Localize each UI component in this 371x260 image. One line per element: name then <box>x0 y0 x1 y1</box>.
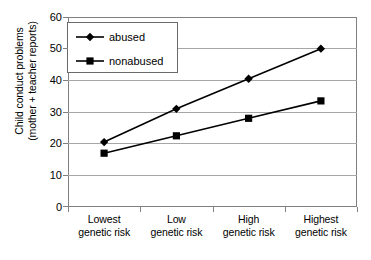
data-point-nonabused-3 <box>317 97 324 104</box>
x-axis-ticks <box>68 207 368 215</box>
x-tick-label-line: genetic risk <box>137 226 215 239</box>
y-tick-label: 40 <box>22 75 62 86</box>
line-chart: Child conduct problems (mother + teacher… <box>0 0 371 260</box>
y-axis-tick-labels: 0102030405060 <box>18 0 62 260</box>
legend-item-nonabused[interactable]: nonabused <box>68 49 179 73</box>
y-tick-label: 50 <box>22 43 62 54</box>
y-tick-label: 0 <box>22 202 62 213</box>
legend-label: abused <box>109 32 145 43</box>
data-point-nonabused-0 <box>101 150 108 157</box>
x-tick-label-line: genetic risk <box>65 226 143 239</box>
legend-label: nonabused <box>109 56 163 67</box>
data-point-abused-3 <box>317 44 325 52</box>
legend-item-abused[interactable]: abused <box>68 25 179 49</box>
y-tick-label: 10 <box>22 170 62 181</box>
x-tick-label-line: genetic risk <box>282 226 360 239</box>
x-tick-label-0: Lowestgenetic risk <box>65 213 143 238</box>
y-tick-label: 30 <box>22 107 62 118</box>
x-tick-label-1: Lowgenetic risk <box>137 213 215 238</box>
x-axis-tick-labels: Lowestgenetic riskLowgenetic riskHighgen… <box>68 213 357 253</box>
y-axis-ticks <box>63 17 69 217</box>
data-point-abused-2 <box>244 75 252 83</box>
legend: abusednonabused <box>67 22 178 73</box>
x-tick-label-2: Highgenetic risk <box>210 213 288 238</box>
legend-marker-square-icon <box>75 54 105 68</box>
x-tick-label-line: genetic risk <box>210 226 288 239</box>
x-tick-label-3: Highestgenetic risk <box>282 213 360 238</box>
y-tick-label: 20 <box>22 138 62 149</box>
data-point-nonabused-1 <box>173 132 180 139</box>
y-tick-label: 60 <box>22 12 62 23</box>
data-point-abused-0 <box>100 138 108 146</box>
data-point-nonabused-2 <box>245 115 252 122</box>
legend-marker-diamond-icon <box>75 30 105 44</box>
